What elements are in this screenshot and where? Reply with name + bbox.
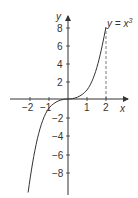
ytick-label: 6 (57, 41, 63, 52)
ytick-label: 8 (57, 23, 63, 34)
ytick-label: 4 (57, 59, 63, 70)
ytick-label: −6 (52, 150, 64, 161)
curve-annotation: y = x3 (106, 17, 132, 29)
ytick-label: −4 (52, 131, 64, 142)
cubic-graph: −2 −1 1 2 8 6 4 2 −2 −4 −6 −8 x y y = x3 (0, 0, 138, 198)
ytick-label: 2 (57, 77, 63, 88)
curve-annotation-exponent: 3 (128, 17, 132, 24)
xtick-label: 1 (84, 102, 90, 113)
x-axis-label: x (119, 103, 126, 114)
xtick-label: −1 (40, 102, 52, 113)
ytick-label: −2 (52, 113, 64, 124)
curve-annotation-text: y = x (106, 18, 129, 29)
xtick-label: 2 (103, 102, 109, 113)
ytick-label: −8 (52, 168, 64, 179)
xtick-label: −2 (22, 102, 34, 113)
y-axis-label: y (55, 11, 62, 22)
